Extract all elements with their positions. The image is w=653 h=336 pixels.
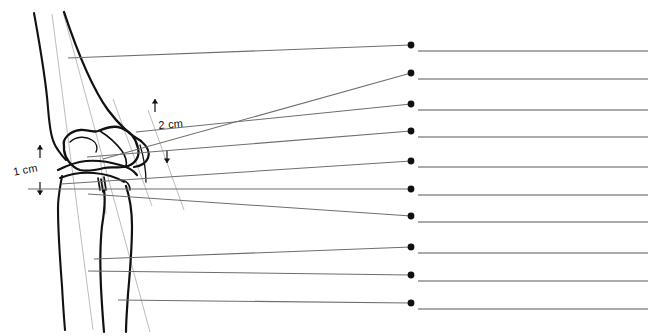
construction-lines (52, 12, 184, 332)
leader-dot-9[interactable] (408, 272, 415, 279)
leader-line-1 (68, 45, 411, 58)
arrow-2cm-lower-head (164, 159, 170, 164)
fibula (126, 186, 132, 332)
leader-lines (28, 45, 411, 303)
arrow-1cm-lower-head (37, 191, 43, 196)
bone-outlines (34, 12, 149, 332)
leader-line-10 (118, 300, 411, 303)
leader-dots (408, 42, 415, 307)
leader-dot-5[interactable] (408, 158, 415, 165)
leader-line-2 (103, 73, 411, 159)
leader-line-5 (61, 161, 411, 184)
leader-line-8 (94, 247, 411, 259)
leader-line-7 (88, 194, 411, 216)
leader-dot-10[interactable] (408, 300, 415, 307)
tibia-shaft-anterior (58, 176, 65, 330)
patella-facet (70, 137, 97, 152)
knee-lateral-drawing (0, 0, 653, 336)
tibia-shaft-posterior (100, 190, 104, 332)
leader-dot-3[interactable] (408, 101, 415, 108)
tibial-anatomic-axis (63, 12, 150, 332)
leader-line-9 (88, 271, 411, 275)
leader-dot-4[interactable] (408, 128, 415, 135)
measurement-label-2cm: 2 cm (158, 117, 184, 131)
leader-dot-7[interactable] (408, 213, 415, 220)
femur-shaft-posterior (64, 12, 141, 141)
leader-dot-2[interactable] (408, 70, 415, 77)
arrow-2cm-upper-head (152, 99, 158, 104)
leader-dot-8[interactable] (408, 244, 415, 251)
leader-dot-1[interactable] (408, 42, 415, 49)
leader-dot-6[interactable] (408, 186, 415, 193)
label-lines (418, 51, 648, 309)
leader-line-4 (87, 131, 411, 157)
arrow-1cm-upper-head (37, 145, 43, 150)
figure-canvas: 1 cm 2 cm (0, 0, 653, 336)
